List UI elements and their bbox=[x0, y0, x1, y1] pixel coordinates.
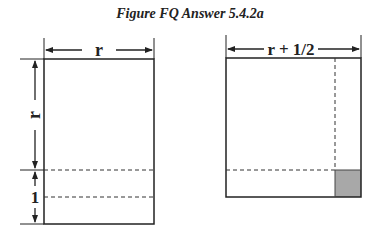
diagram: r r 1 r + 1/2 bbox=[0, 0, 380, 236]
shaded-square bbox=[335, 170, 361, 197]
extension-label: 1 bbox=[31, 188, 40, 207]
width-label: r + 1/2 bbox=[267, 40, 314, 59]
width-label: r bbox=[95, 40, 103, 60]
left-rectangle bbox=[44, 59, 154, 224]
right-figure: r + 1/2 bbox=[226, 35, 361, 197]
height-label: r bbox=[24, 111, 44, 119]
left-figure: r r 1 bbox=[20, 38, 154, 224]
